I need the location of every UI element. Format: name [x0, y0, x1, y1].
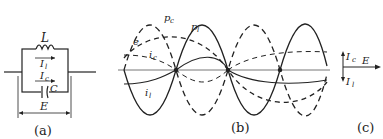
svg-text:l: l: [352, 81, 354, 89]
svg-text:c: c: [45, 75, 49, 83]
e-phasor-label: E: [361, 55, 370, 66]
caption-b: (b): [231, 120, 249, 135]
il-phasor-label: I: [345, 76, 351, 87]
caption-c: (c): [357, 120, 374, 135]
inductor-label: L: [40, 31, 49, 45]
caption-a: (a): [34, 123, 52, 138]
svg-text:l: l: [197, 26, 199, 34]
svg-text:l: l: [45, 63, 47, 71]
ic-label: i: [149, 49, 152, 60]
circuit-diagram: [4, 45, 96, 118]
svg-text:c: c: [352, 56, 356, 64]
svg-text:c: c: [170, 17, 174, 25]
capacitor-label: C: [50, 83, 58, 94]
lc-parallel-circuit-figure: L I l I c C E (a) p c p l e i c i l (b): [0, 0, 383, 139]
svg-text:l: l: [149, 92, 151, 100]
voltage-label: E: [39, 100, 48, 113]
ic-phasor-label: I: [345, 51, 351, 62]
e-label: e: [133, 36, 139, 47]
svg-text:c: c: [153, 54, 157, 62]
il-label: i: [145, 87, 148, 98]
waveform-plot: [118, 24, 330, 116]
